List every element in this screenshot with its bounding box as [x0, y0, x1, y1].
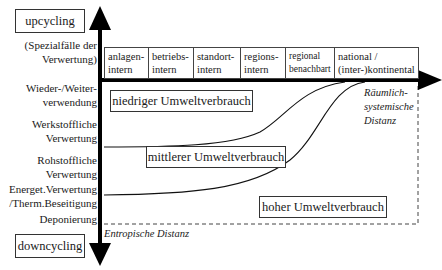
y-level-spezialfaelle: (Spezialfälle der Verwertung)	[25, 38, 97, 66]
x-cat-regional-benachbart: regional benachbart	[285, 47, 335, 79]
downcycling-label: downcycling	[15, 234, 85, 258]
region-high-label: hoher Umweltverbrauch	[259, 196, 387, 218]
x-cat-regionsintern: regions- intern	[240, 47, 286, 79]
y-level-line1: Deponierung	[40, 212, 97, 226]
x-cat-line2: intern	[108, 63, 145, 76]
y-level-line2: Verwertung	[32, 131, 97, 145]
y-level-wiederverwendung: Wieder-/Weiter- verwendung	[26, 81, 97, 109]
y-level-energetisch: Energet.Verwertung /Therm.Beseitigung	[9, 182, 97, 210]
y-level-line1: Wieder-/Weiter-	[26, 81, 97, 95]
region-low-label: niedriger Umweltverbrauch	[110, 90, 253, 112]
y-level-werkstoffliche: Werkstoffliche Verwertung	[32, 117, 97, 145]
x-cat-line1: national /	[338, 50, 415, 63]
x-cat-line1: betriebs-	[152, 50, 190, 63]
x-cat-line1: regional	[289, 50, 331, 63]
y-level-deponierung: Deponierung	[40, 212, 97, 226]
upcycling-label: upcycling	[15, 9, 85, 33]
x-cat-anlagenintern: anlagen- intern	[104, 47, 149, 79]
x-cat-national-kontinental: national / (inter-)kontinental	[334, 47, 419, 79]
x-cat-line1: anlagen-	[108, 50, 145, 63]
x-cat-line2: benachbart	[289, 63, 331, 76]
x-cat-line2: intern	[244, 63, 282, 76]
x-axis-title-line2: systemische	[364, 100, 414, 114]
y-level-line1: (Spezialfälle der	[25, 38, 97, 52]
y-level-line2: Verwertung	[37, 167, 97, 181]
arrow-up-icon	[89, 6, 111, 30]
y-level-line1: Rohstoffliche	[37, 153, 97, 167]
x-cat-standortintern: standort- intern	[193, 47, 241, 79]
x-axis-title-line3: Distanz	[364, 114, 414, 128]
y-level-line1: Werkstoffliche	[32, 117, 97, 131]
x-axis-title-line1: Räumlich-	[364, 86, 414, 100]
x-cat-line1: regions-	[244, 50, 282, 63]
arrow-down-icon	[89, 243, 111, 266]
region-medium-label: mittlerer Umweltverbrauch	[146, 146, 286, 168]
y-level-rohstoffliche: Rohstoffliche Verwertung	[37, 153, 97, 181]
x-cat-line1: standort-	[197, 50, 237, 63]
x-cat-line2: intern	[197, 63, 237, 76]
y-level-line2: verwendung	[26, 95, 97, 109]
y-level-line1: Energet.Verwertung	[9, 182, 97, 196]
x-cat-line2: intern	[152, 63, 190, 76]
x-cat-betriebsintern: betriebs- intern	[148, 47, 194, 79]
x-axis-title: Räumlich- systemische Distanz	[364, 86, 414, 128]
y-level-line2: Verwertung)	[25, 52, 97, 66]
y-level-line2: /Therm.Beseitigung	[9, 196, 97, 210]
x-cat-line2: (inter-)kontinental	[338, 63, 415, 76]
y-axis-title: Entropische Distanz	[104, 227, 189, 241]
arrow-right-icon	[418, 70, 442, 90]
